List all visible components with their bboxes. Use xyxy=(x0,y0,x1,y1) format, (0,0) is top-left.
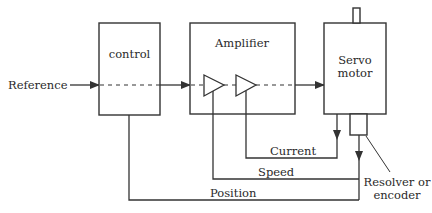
resolver-label-line2: encoder xyxy=(373,188,421,202)
servo-diagram: Reference control Amplifier Servo motor … xyxy=(0,0,432,213)
reference-label: Reference xyxy=(8,78,68,92)
amplifier-label: Amplifier xyxy=(214,36,269,50)
servo-label-line1: Servo xyxy=(338,53,372,67)
resolver-leader-line xyxy=(366,136,390,172)
current-label: Current xyxy=(270,144,316,158)
motor-shaft xyxy=(353,8,360,23)
resolver-block xyxy=(350,114,367,135)
control-block xyxy=(99,23,160,115)
resolver-label-line1: Resolver or xyxy=(364,175,431,189)
position-label: Position xyxy=(210,186,257,200)
control-label: control xyxy=(109,47,151,61)
servo-label-line2: motor xyxy=(338,66,373,80)
speed-label: Speed xyxy=(258,165,295,179)
